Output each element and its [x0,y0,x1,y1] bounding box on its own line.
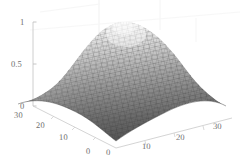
x-tick-30: 30 [213,122,222,131]
y-tick-30: 30 [14,111,23,120]
z-tick-0point5: 0.5 [11,60,22,69]
z-tick-1: 1 [20,18,24,27]
gaussian-surface [0,0,242,165]
y-tick-20: 20 [36,121,45,130]
z-axis [33,22,37,106]
surface-plot-figure: 1 0.5 0 30 20 10 0 0 10 20 30 [0,0,242,165]
x-tick-0: 0 [106,148,111,157]
surface-plot-canvas [0,0,242,165]
y-tick-0: 0 [86,147,91,156]
y-tick-10: 10 [59,133,68,142]
x-tick-20: 20 [176,133,185,142]
x-tick-10: 10 [142,142,151,151]
